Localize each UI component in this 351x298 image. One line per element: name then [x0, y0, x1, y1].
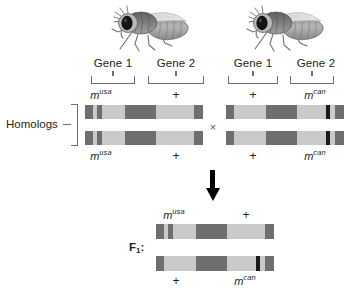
- allele-f1-top-gene2: +: [228, 208, 264, 222]
- allele-f1-top-gene1: musa: [156, 207, 192, 221]
- allele-right-bottom-gene1: +: [235, 149, 271, 163]
- allele-base: m: [304, 150, 313, 162]
- allele-base: m: [90, 89, 99, 101]
- gene-label-right-gene2: Gene 2: [288, 57, 344, 69]
- allele-base: +: [172, 274, 179, 288]
- fly-illustration-right: [243, 2, 329, 54]
- allele-base: +: [172, 88, 179, 102]
- allele-f1-bottom-gene1: +: [158, 274, 194, 288]
- chromosome-band: [194, 131, 203, 145]
- chromosome-band: [266, 131, 297, 145]
- chromosome-band: [256, 256, 260, 271]
- chromosome-band: [156, 224, 164, 239]
- gene-label-right-gene1: Gene 1: [225, 57, 281, 69]
- allele-f1-bottom-gene2: mcan: [226, 273, 264, 287]
- homologs-bracket: [71, 104, 78, 146]
- chromosome-band: [326, 105, 330, 119]
- allele-base: +: [242, 208, 249, 222]
- allele-sup: can: [313, 148, 326, 157]
- allele-base: m: [304, 89, 313, 101]
- gene-label-left-gene2: Gene 2: [148, 57, 204, 69]
- allele-left-top-gene1: musa: [83, 87, 119, 101]
- chromosome-band: [265, 256, 274, 271]
- allele-sup: usa: [99, 148, 112, 157]
- chromosome-band: [194, 105, 203, 119]
- chromosome-band: [196, 224, 227, 239]
- chromosome-band: [85, 131, 93, 145]
- gene-bracket-right-gene1: [228, 76, 278, 84]
- allele-base: +: [249, 149, 256, 163]
- fly-illustration-left: [108, 2, 194, 54]
- allele-right-top-gene1: +: [235, 88, 271, 102]
- chromosome-band: [196, 256, 227, 271]
- f1-label-text: F: [129, 241, 136, 253]
- f1-label-subscript: 1: [136, 246, 140, 255]
- allele-sup: usa: [172, 207, 185, 216]
- homologs-label: Homologs: [6, 118, 58, 130]
- allele-left-bottom-gene1: musa: [83, 148, 119, 162]
- chromosome-band: [156, 256, 164, 271]
- chromosome-band: [335, 105, 344, 119]
- chromosome-band: [125, 105, 156, 119]
- gene-bracket-left-gene2: [148, 76, 204, 84]
- chromosome-band: [125, 131, 156, 145]
- allele-base: m: [163, 209, 172, 221]
- allele-base: m: [234, 275, 243, 287]
- gene-bracket-right-gene2: [290, 76, 334, 84]
- chromosome-right-homolog-2: [226, 131, 344, 145]
- chromosome-left-homolog-2: [85, 131, 203, 145]
- allele-sup: usa: [99, 87, 112, 96]
- chromosome-band: [85, 105, 93, 119]
- allele-right-bottom-gene2: mcan: [296, 148, 334, 162]
- chromosome-band: [266, 105, 297, 119]
- chromosome-band: [265, 224, 274, 239]
- allele-sup: can: [313, 87, 326, 96]
- chromosome-band: [326, 131, 330, 145]
- chromosome-band: [97, 105, 102, 119]
- gene-label-left-gene1: Gene 1: [85, 57, 141, 69]
- chromosome-right-homolog-1: [226, 105, 344, 119]
- chromosome-band: [335, 131, 344, 145]
- f1-label: F1:: [129, 241, 144, 253]
- allele-base: +: [172, 149, 179, 163]
- f1-label-colon: :: [140, 241, 144, 253]
- allele-left-bottom-gene2: +: [158, 149, 194, 163]
- chromosome-f1-homolog-1: [156, 224, 274, 239]
- allele-right-top-gene2: mcan: [296, 87, 334, 101]
- allele-left-top-gene2: +: [158, 88, 194, 102]
- chromosome-band: [226, 131, 234, 145]
- chromosome-band: [226, 105, 234, 119]
- allele-base: m: [90, 150, 99, 162]
- down-arrow-shaft: [210, 170, 215, 190]
- chromosome-f1-homolog-2: [156, 256, 274, 271]
- allele-sup: can: [243, 273, 256, 282]
- allele-base: +: [249, 88, 256, 102]
- down-arrow-head: [206, 188, 220, 201]
- chromosome-band: [97, 131, 102, 145]
- chromosome-left-homolog-1: [85, 105, 203, 119]
- chromosome-band: [168, 224, 173, 239]
- cross-symbol: ×: [206, 121, 220, 133]
- gene-bracket-left-gene1: [91, 76, 135, 84]
- homologs-dash: [63, 124, 71, 125]
- genetics-cross-figure: Gene 1 Gene 2 musa + Gene 1 Gene 2 + mca…: [0, 0, 351, 298]
